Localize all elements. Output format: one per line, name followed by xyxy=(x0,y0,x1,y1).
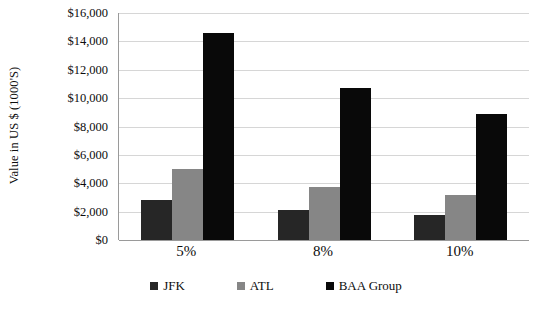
bars-layer xyxy=(119,13,529,240)
y-axis-tick-label: $0 xyxy=(96,233,109,248)
y-axis-tick-label: $8,000 xyxy=(74,119,108,134)
legend-swatch-icon xyxy=(150,282,158,290)
legend-swatch-icon xyxy=(237,282,245,290)
y-axis-tick-label: $2,000 xyxy=(74,204,108,219)
chart-legend: JFKATLBAA Group xyxy=(0,278,552,294)
y-axis-tick-labels: $0$2,000$4,000$6,000$8,000$10,000$12,000… xyxy=(30,13,114,240)
bar-chart: Value in US $ (1000'S) $0$2,000$4,000$6,… xyxy=(0,0,552,309)
bar-baa-group-5pct xyxy=(203,33,234,240)
bar-group xyxy=(256,13,393,240)
y-axis-tick-label: $10,000 xyxy=(67,91,108,106)
legend-label: BAA Group xyxy=(339,278,402,294)
y-axis-tick-label: $4,000 xyxy=(74,176,108,191)
legend-item-jfk: JFK xyxy=(150,278,185,294)
bar-baa-group-8pct xyxy=(340,88,371,240)
gridline xyxy=(119,240,529,241)
x-axis-tick-label: 8% xyxy=(255,243,392,267)
bar-atl-8pct xyxy=(309,187,340,240)
y-axis-title: Value in US $ (1000'S) xyxy=(0,0,30,250)
bar-atl-10pct xyxy=(445,195,476,240)
bar-jfk-8pct xyxy=(278,210,309,240)
legend-label: ATL xyxy=(250,278,274,294)
y-axis-tick-label: $14,000 xyxy=(67,34,108,49)
legend-item-baa-group: BAA Group xyxy=(326,278,402,294)
x-axis-tick-labels: 5%8%10% xyxy=(118,243,528,267)
y-axis-title-text: Value in US $ (1000'S) xyxy=(8,66,23,184)
legend-item-atl: ATL xyxy=(237,278,274,294)
bar-group xyxy=(119,13,256,240)
plot-area xyxy=(118,13,529,240)
bar-group xyxy=(392,13,529,240)
legend-label: JFK xyxy=(163,278,185,294)
bar-jfk-10pct xyxy=(414,215,445,240)
x-axis-tick-label: 10% xyxy=(391,243,528,267)
bar-atl-5pct xyxy=(172,169,203,240)
legend-swatch-icon xyxy=(326,282,334,290)
y-axis-tick-label: $16,000 xyxy=(67,6,108,21)
x-axis-tick-label: 5% xyxy=(118,243,255,267)
bar-jfk-5pct xyxy=(141,200,172,240)
bar-baa-group-10pct xyxy=(476,114,507,240)
y-axis-tick-label: $12,000 xyxy=(67,62,108,77)
y-axis-tick-label: $6,000 xyxy=(74,147,108,162)
